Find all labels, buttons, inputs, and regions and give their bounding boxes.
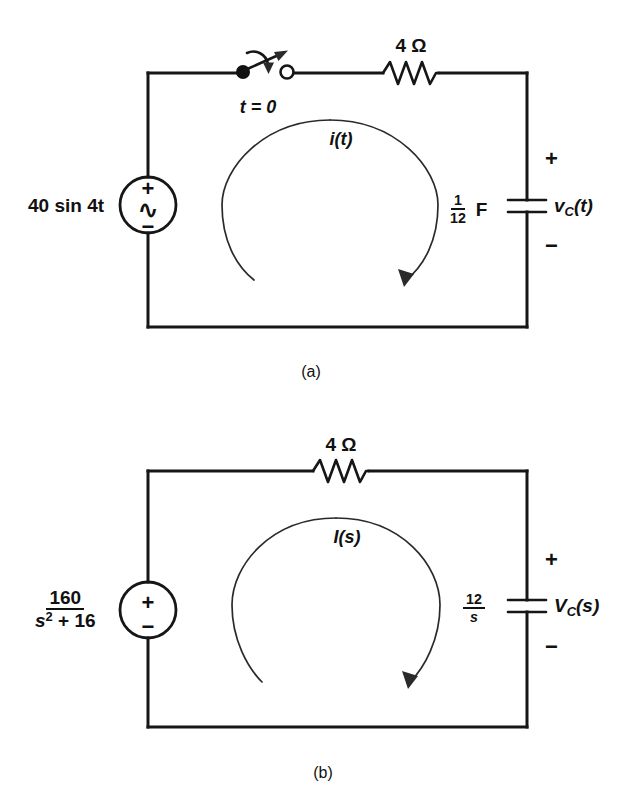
source-b-plus: + — [142, 592, 155, 614]
source-b-label: 160 s2 + 16 — [32, 588, 99, 630]
loop-current-b-label: I(s) — [334, 528, 361, 546]
capacitor-b-numerator: 12 — [463, 592, 485, 609]
source-a-amplitude: 40 sin 4t — [28, 195, 104, 216]
capacitor-a-denominator: 12 — [447, 210, 469, 225]
resistor-b-label: 4 Ω — [325, 435, 356, 454]
capacitor-a-value: 1 12 F — [447, 193, 487, 226]
source-a-label: 40 sin 4t — [28, 196, 104, 215]
switch-a-label: t = 0 — [240, 98, 277, 116]
capacitor-a-voltage-label: vC(t) — [554, 196, 593, 219]
source-b-minus: − — [142, 616, 155, 638]
capacitor-a-plus: + — [545, 148, 558, 170]
resistor-a-label: 4 Ω — [395, 36, 426, 55]
switch-open-contact — [281, 66, 294, 79]
source-b-den-rest: + 16 — [53, 610, 96, 631]
capacitor-b-minus: − — [545, 636, 558, 658]
resistor-b-symbol — [313, 460, 369, 482]
caption-a: (a) — [301, 364, 321, 380]
capacitor-a-voltage-subscript: C — [565, 204, 574, 219]
capacitor-b-voltage-symbol: V — [554, 595, 567, 616]
capacitor-b-denominator: s — [467, 609, 481, 624]
loop-current-arc-left — [222, 120, 330, 280]
capacitor-a-voltage-symbol: v — [554, 195, 565, 216]
capacitor-b-plus: + — [545, 549, 558, 571]
caption-b: (b) — [313, 765, 333, 781]
figure-b-s-domain-circuit: 4 Ω I(s) 160 s2 + 16 + − 12 s + − VC(s) … — [0, 410, 636, 810]
capacitor-b-voltage-subscript: C — [567, 604, 576, 619]
source-b-numerator: 160 — [46, 588, 84, 610]
resistor-symbol — [383, 62, 439, 84]
loop-current-b-arc-left — [232, 518, 336, 682]
source-b-den-exponent: 2 — [46, 609, 53, 624]
capacitor-a-minus: − — [545, 235, 558, 257]
capacitor-b-voltage-arg: (s) — [576, 595, 599, 616]
capacitor-a-voltage-arg: (t) — [574, 195, 593, 216]
capacitor-b-voltage-label: VC(s) — [554, 596, 599, 619]
source-b-denominator: s2 + 16 — [32, 610, 99, 630]
switch-motion-arrowhead — [263, 63, 274, 75]
capacitor-b-fraction: 12 s — [463, 592, 485, 625]
loop-current-arrowhead — [398, 269, 414, 287]
source-b-den-base: s — [35, 610, 46, 631]
switch-pivot-dot — [236, 65, 250, 79]
loop-current-b-arrowhead — [402, 671, 418, 689]
capacitor-a-fraction: 1 12 — [447, 193, 469, 226]
source-b-fraction: 160 s2 + 16 — [32, 588, 99, 630]
source-a-minus: − — [142, 216, 155, 238]
capacitor-b-value: 12 s — [463, 592, 485, 625]
loop-current-a-label: i(t) — [330, 130, 353, 148]
capacitor-a-unit: F — [476, 200, 488, 219]
figure-a-time-domain-circuit: 4 Ω t = 0 i(t) 40 sin 4t + ∿ − 1 12 F + … — [0, 0, 636, 410]
capacitor-a-numerator: 1 — [451, 193, 465, 210]
switch-blade-arrowhead — [274, 51, 288, 62]
